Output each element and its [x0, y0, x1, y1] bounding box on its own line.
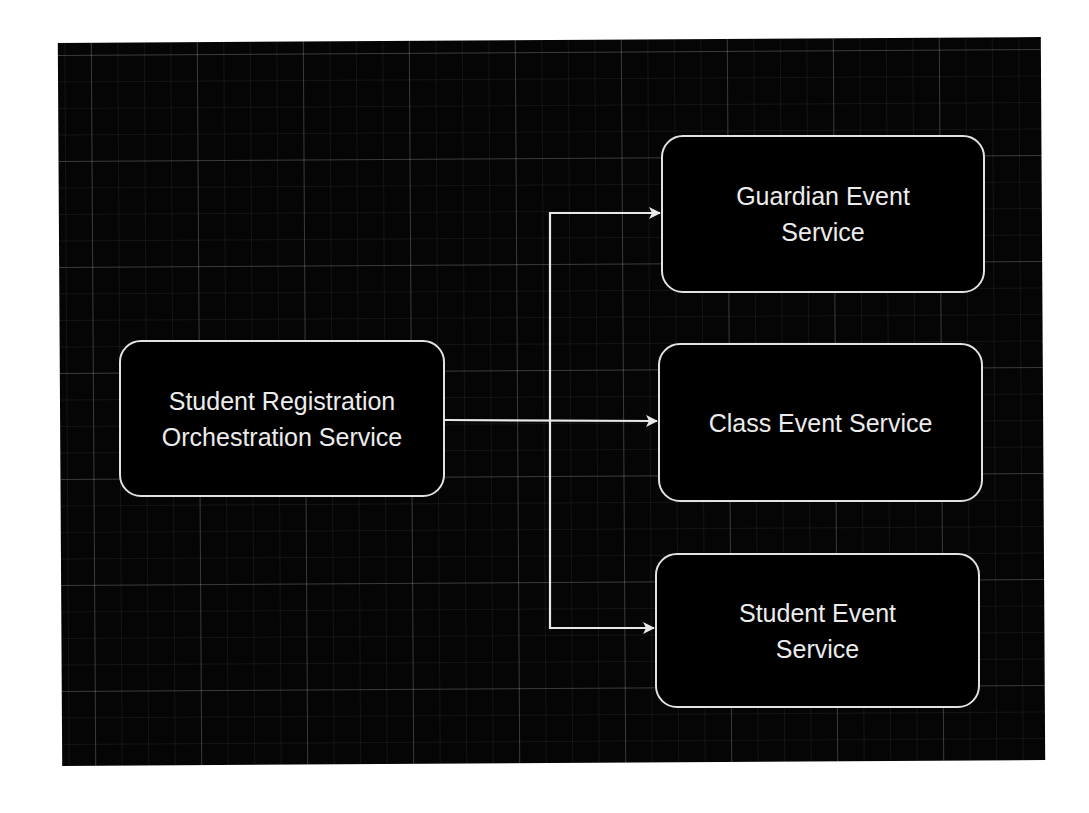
node-label: Student Event Service: [739, 595, 896, 667]
node-label: Guardian Event Service: [736, 178, 910, 250]
node-student-registration-orchestration-service[interactable]: Student Registration Orchestration Servi…: [119, 340, 445, 497]
node-guardian-event-service[interactable]: Guardian Event Service: [661, 135, 985, 293]
node-label: Student Registration Orchestration Servi…: [162, 383, 402, 455]
node-class-event-service[interactable]: Class Event Service: [658, 343, 983, 502]
node-label: Class Event Service: [709, 405, 933, 441]
node-student-event-service[interactable]: Student Event Service: [655, 553, 980, 708]
